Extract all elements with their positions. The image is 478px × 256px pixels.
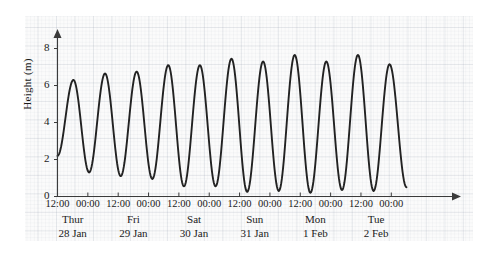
x-axis-arrow-icon	[452, 193, 461, 201]
day-name: Sat	[159, 212, 229, 226]
day-name: Tue	[341, 212, 411, 226]
y-axis-arrow-icon	[54, 29, 62, 38]
day-name: Fri	[98, 212, 168, 226]
day-name: Sun	[220, 212, 290, 226]
x-tick-label: 00:00	[368, 198, 414, 209]
day-date: 30 Jan	[159, 226, 229, 240]
day-label-group: Fri29 Jan	[98, 212, 168, 240]
day-label-group: Sun31 Jan	[220, 212, 290, 240]
day-date: 31 Jan	[220, 226, 290, 240]
day-label-group: Tue2 Feb	[341, 212, 411, 240]
axes-group	[54, 29, 462, 201]
tide-curve-group	[58, 55, 407, 193]
day-label-group: Thur28 Jan	[38, 212, 108, 240]
day-name: Mon	[280, 212, 350, 226]
day-name: Thur	[38, 212, 108, 226]
y-tick-label: 2	[34, 152, 50, 164]
tide-height-chart: Height (m) 86420 12:0000:0012:0000:0012:…	[0, 0, 478, 256]
day-date: 2 Feb	[341, 226, 411, 240]
y-tick-label: 6	[34, 78, 50, 90]
day-label-group: Mon1 Feb	[280, 212, 350, 240]
day-date: 29 Jan	[98, 226, 168, 240]
day-date: 1 Feb	[280, 226, 350, 240]
y-tick-label: 4	[34, 115, 50, 127]
day-label-group: Sat30 Jan	[159, 212, 229, 240]
day-date: 28 Jan	[38, 226, 108, 240]
y-tick-label: 8	[34, 41, 50, 53]
tide-curve	[58, 55, 407, 193]
y-axis-label: Height (m)	[21, 39, 33, 129]
x-tick-marks	[58, 193, 392, 197]
